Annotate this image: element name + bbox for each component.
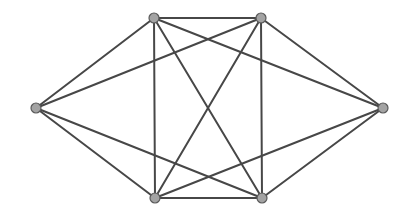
edge-left-top-right <box>36 18 261 108</box>
node-top-left <box>149 13 159 23</box>
node-bottom-right <box>257 193 267 203</box>
graph-diagram <box>0 0 407 220</box>
edge-left-bottom-left <box>36 108 155 198</box>
edge-left-bottom-right <box>36 108 262 198</box>
edge-left-top-left <box>36 18 154 108</box>
edge-top-right-bottom-right <box>261 18 262 198</box>
edge-right-bottom-right <box>262 108 383 198</box>
edges-group <box>36 18 383 198</box>
node-bottom-left <box>150 193 160 203</box>
edge-top-left-bottom-left <box>154 18 155 198</box>
edge-right-top-left <box>154 18 383 108</box>
edge-right-bottom-left <box>155 108 383 198</box>
nodes-group <box>31 13 388 203</box>
edge-right-top-right <box>261 18 383 108</box>
node-left <box>31 103 41 113</box>
node-right <box>378 103 388 113</box>
node-top-right <box>256 13 266 23</box>
